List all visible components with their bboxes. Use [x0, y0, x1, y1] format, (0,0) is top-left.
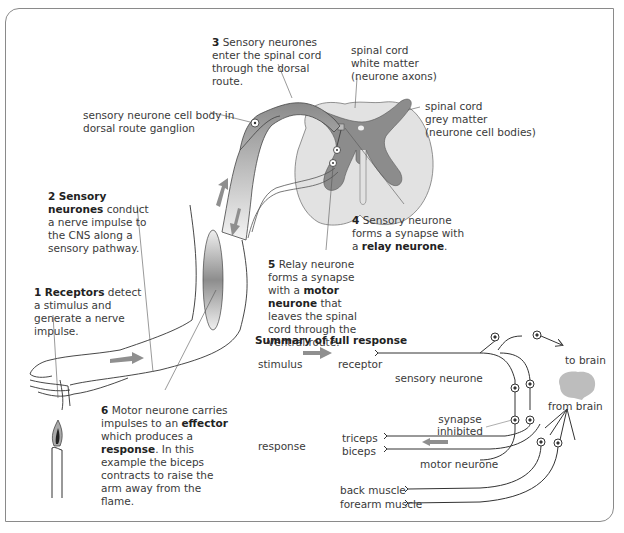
label-triceps: triceps: [342, 432, 378, 444]
label-sensory-neurone: sensory neurone: [395, 372, 483, 384]
label-back-muscle: back muscle: [340, 484, 406, 496]
brain-icon: [559, 372, 595, 400]
biceps-muscle: [203, 230, 223, 330]
annotation-step-2: 2 Sensory neurones conduct a nerve impul…: [48, 190, 158, 255]
arrow-right-icon: [110, 352, 144, 364]
label-motor-neurone: motor neurone: [420, 458, 498, 470]
arrow-up-icon: [216, 178, 228, 207]
label-response: response: [258, 440, 306, 452]
candle-icon: [52, 420, 62, 498]
response-arrow-icon: [422, 438, 448, 446]
annotation-step-6: 6 Motor neurone carries impulses to an e…: [101, 404, 229, 508]
annotation-step-3: 3 Sensory neurones enter the spinal cord…: [212, 36, 342, 88]
label-synapse-inhibited: synapse inhibited: [437, 413, 483, 437]
label-biceps: biceps: [342, 445, 376, 457]
label-to-brain: to brain: [565, 354, 606, 366]
label-grey-matter: spinal cord grey matter (neurone cell bo…: [425, 100, 536, 139]
label-white-matter: spinal cord white matter (neurone axons): [351, 44, 437, 83]
label-stimulus: stimulus: [258, 358, 302, 370]
label-receptor: receptor: [338, 358, 382, 370]
annotation-step-1: 1 Receptors detect a stimulus and genera…: [34, 286, 142, 338]
summary-title: Summary of full response: [255, 334, 407, 346]
label-cell-body: sensory neurone cell body in dorsal rout…: [83, 109, 234, 135]
label-forearm-muscle: forearm muscle: [340, 498, 422, 510]
annotation-step-4: 4 Sensory neurone forms a synapse with a…: [352, 214, 467, 253]
label-from-brain: from brain: [548, 400, 603, 412]
